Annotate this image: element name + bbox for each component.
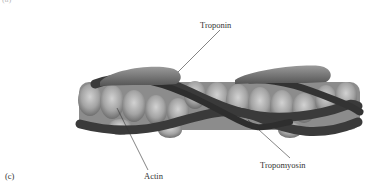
tropomyosin-label: Tropomyosin: [260, 160, 306, 170]
troponin-label: Troponin: [200, 20, 231, 30]
actin-label: Actin: [144, 171, 163, 181]
panel-label-c: (c): [5, 171, 14, 181]
panel-label-a: (a): [2, 0, 11, 4]
thin-filament-diagram: [0, 0, 375, 191]
